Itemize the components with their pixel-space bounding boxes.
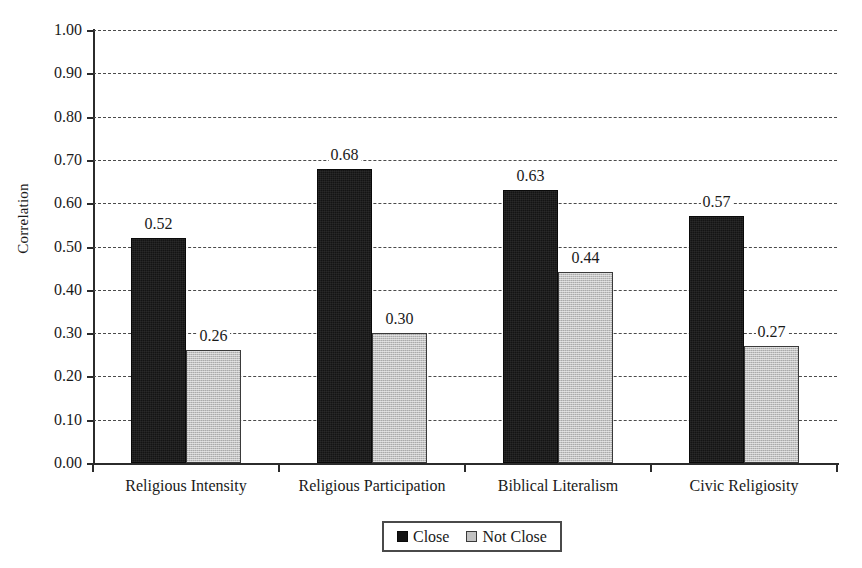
x-axis-tick-mark [650, 463, 652, 472]
bar-value-label: 0.27 [756, 324, 788, 340]
x-axis-category-label: Civic Religiosity [690, 478, 799, 494]
plot-area: 0.000.100.200.300.400.500.600.700.800.90… [93, 30, 837, 463]
legend-item: Not Close [466, 529, 546, 545]
bar-value-label: 0.57 [701, 194, 733, 210]
y-axis-tick-mark [87, 290, 94, 292]
y-axis-tick-mark [87, 30, 94, 32]
bar-not-close [558, 272, 613, 463]
y-axis-tick-label: 0.90 [54, 65, 82, 81]
x-axis-tick-mark [92, 463, 94, 472]
y-axis-tick-label: 0.40 [54, 282, 82, 298]
gridline [93, 30, 837, 31]
x-axis-tick-mark [278, 463, 280, 472]
bar-close [689, 216, 744, 463]
y-axis-tick-mark [87, 376, 94, 378]
gridline [93, 73, 837, 74]
bar-value-label: 0.68 [329, 147, 361, 163]
grouped-bar-chart: Correlation 0.000.100.200.300.400.500.60… [0, 0, 862, 568]
bar-not-close [372, 333, 427, 463]
y-axis-title: Correlation [15, 149, 32, 289]
legend-swatch-notclose-icon [466, 531, 477, 542]
bar-value-label: 0.26 [198, 328, 230, 344]
y-axis-tick-label: 0.10 [54, 412, 82, 428]
bar-value-label: 0.30 [384, 311, 416, 327]
bar-close [131, 238, 186, 463]
y-axis-tick-mark [87, 333, 94, 335]
y-axis-tick-label: 0.50 [54, 239, 82, 255]
bar-value-label: 0.63 [515, 168, 547, 184]
y-axis-tick-label: 0.60 [54, 195, 82, 211]
y-axis-tick-mark [87, 420, 94, 422]
legend-label: Not Close [482, 529, 546, 545]
gridline [93, 160, 837, 161]
y-axis-tick-label: 0.00 [54, 455, 82, 471]
y-axis-tick-label: 0.30 [54, 325, 82, 341]
legend-swatch-close-icon [397, 531, 408, 542]
y-axis-tick-label: 1.00 [54, 22, 82, 38]
chart-legend: CloseNot Close [382, 521, 562, 552]
bar-value-label: 0.52 [143, 216, 175, 232]
y-axis-tick-mark [87, 73, 94, 75]
legend-label: Close [413, 529, 449, 545]
x-axis-category-label: Religious Participation [298, 478, 445, 494]
y-axis-tick-mark [87, 247, 94, 249]
y-axis-tick-label: 0.70 [54, 152, 82, 168]
y-axis-tick-mark [87, 203, 94, 205]
x-axis-category-label: Biblical Literalism [498, 478, 618, 494]
bar-value-label: 0.44 [570, 250, 602, 266]
bar-close [317, 169, 372, 463]
y-axis-tick-mark [87, 160, 94, 162]
x-axis-tick-mark [836, 463, 838, 472]
bar-not-close [744, 346, 799, 463]
bar-not-close [186, 350, 241, 463]
legend-item: Close [397, 529, 449, 545]
x-axis-tick-mark [464, 463, 466, 472]
y-axis-tick-mark [87, 117, 94, 119]
bar-close [503, 190, 558, 463]
y-axis-tick-label: 0.20 [54, 368, 82, 384]
x-axis-category-label: Religious Intensity [125, 478, 246, 494]
y-axis-tick-label: 0.80 [54, 109, 82, 125]
x-axis-line [93, 463, 839, 465]
gridline [93, 117, 837, 118]
